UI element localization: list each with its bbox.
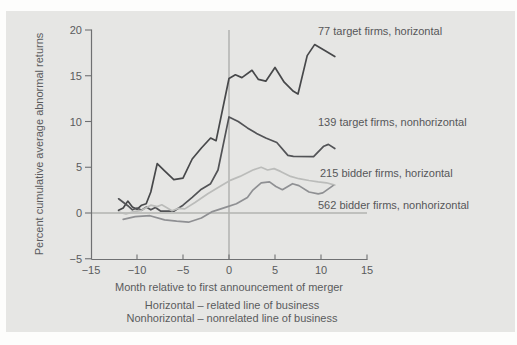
x-tick-label: 15 [350, 264, 384, 276]
y-tick-label: −5 [56, 253, 82, 265]
footnote-horizontal: Horizontal – related line of business [127, 299, 338, 312]
footnote-nonhorizontal: Nonhorizontal – nonrelated line of busin… [127, 312, 338, 325]
y-axis-title: Percent cumulative average abnormal retu… [33, 33, 45, 256]
y-tick-label: 0 [56, 207, 82, 219]
figure-page: 20151050−5 −15−10−5051015 Percent cumula… [0, 0, 517, 345]
series-label-215-bidder-horizontal: 215 bidder firms, horizontal [320, 167, 453, 179]
y-tick-label: 5 [56, 161, 82, 173]
series-label-77-target-horizontal: 77 target firms, horizontal [318, 25, 442, 37]
series-label-139-target-nonhorizontal: 139 target firms, nonhorizontal [318, 116, 467, 128]
x-tick-label: −5 [166, 264, 200, 276]
x-tick-label: −10 [120, 264, 154, 276]
footnotes: Horizontal – related line of business No… [127, 299, 338, 325]
x-tick-label: 10 [304, 264, 338, 276]
y-tick-label: 10 [56, 116, 82, 128]
x-tick-label: −15 [74, 264, 108, 276]
x-tick-label: 5 [258, 264, 292, 276]
series-label-562-bidder-nonhorizontal: 562 bidder firms, nonhorizontal [318, 199, 469, 211]
y-tick-label: 15 [56, 70, 82, 82]
y-tick-label: 20 [56, 24, 82, 36]
x-axis-title: Month relative to first announcement of … [115, 281, 343, 293]
x-tick-label: 0 [212, 264, 246, 276]
